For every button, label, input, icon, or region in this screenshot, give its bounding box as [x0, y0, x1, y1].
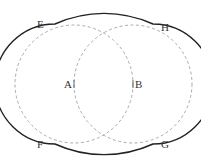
label-a: A: [64, 78, 72, 90]
label-h: H: [161, 21, 169, 33]
label-f: F: [37, 138, 43, 150]
label-g: G: [161, 138, 169, 150]
construction-diagram: E H F G A B: [0, 0, 201, 159]
label-b: B: [135, 78, 142, 90]
label-e: E: [37, 18, 44, 30]
